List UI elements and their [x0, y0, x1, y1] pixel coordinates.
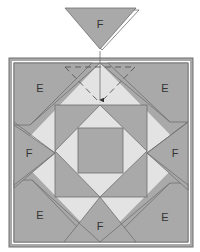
label-corner-bottom-right: E [161, 211, 168, 223]
quilt-diagram: F E E F F E E F [0, 0, 200, 252]
label-corner-top-right: E [161, 82, 168, 94]
label-floating-f: F [97, 18, 104, 30]
center-square [78, 128, 123, 173]
label-corner-top-left: E [36, 82, 43, 94]
label-side-left: F [26, 147, 33, 159]
center-square-unit [55, 105, 147, 197]
label-side-bottom: F [97, 220, 104, 232]
label-side-right: F [172, 147, 179, 159]
label-corner-bottom-left: E [36, 209, 43, 221]
